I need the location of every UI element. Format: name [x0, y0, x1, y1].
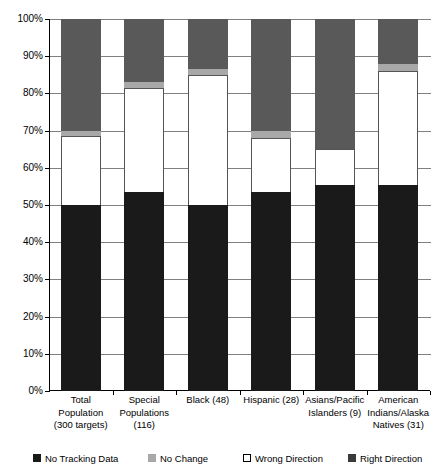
- bar-stack: [188, 19, 228, 391]
- y-axis-tick-label: 80%: [0, 88, 43, 98]
- bar-stack: [378, 19, 418, 391]
- x-axis-labels: TotalPopulation(300 targets)SpecialPopul…: [49, 394, 430, 446]
- legend-item[interactable]: No Tracking Data: [33, 453, 118, 464]
- y-axis-tick-label: 50%: [0, 200, 43, 210]
- x-axis-label: AmericanIndians/AlaskaNatives (31): [367, 394, 431, 432]
- legend-item[interactable]: Right Direction: [348, 453, 422, 464]
- legend-swatch-icon: [243, 454, 251, 462]
- bar-segment-no-tracking[interactable]: [61, 19, 101, 131]
- x-axis-label-line: American: [367, 394, 431, 407]
- x-axis-label-line: Population: [49, 407, 113, 420]
- y-axis-tick-label: 90%: [0, 51, 43, 61]
- y-axis-tick-label: 30%: [0, 274, 43, 284]
- bar-segment-no-tracking[interactable]: [378, 19, 418, 64]
- x-axis-label: Asians/PacificIslanders (9): [303, 394, 367, 419]
- legend-swatch-icon: [348, 454, 356, 462]
- bar-segment-right-direction[interactable]: [251, 192, 291, 391]
- bar-segment-right-direction[interactable]: [61, 205, 101, 391]
- legend-label: Right Direction: [360, 453, 422, 464]
- bar-column[interactable]: [61, 19, 101, 391]
- legend-item[interactable]: Wrong Direction: [243, 453, 323, 464]
- x-axis-label: SpecialPopulations(116): [113, 394, 177, 432]
- x-axis-label-line: Special: [113, 394, 177, 407]
- chart-legend: No Tracking DataNo ChangeWrong Direction…: [0, 450, 435, 466]
- y-axis-tick-label: 10%: [0, 349, 43, 359]
- x-axis-label-line: Asians/Pacific: [303, 394, 367, 407]
- bar-segment-wrong-direction[interactable]: [61, 136, 101, 205]
- y-axis-tick-label: 100%: [0, 14, 43, 24]
- stacked-bar-chart: 0%10%20%30%40%50%60%70%80%90%100% TotalP…: [0, 0, 435, 473]
- bar-segment-right-direction[interactable]: [315, 185, 355, 391]
- bar-segment-no-tracking[interactable]: [251, 19, 291, 131]
- bar-segment-wrong-direction[interactable]: [251, 138, 291, 192]
- bars-layer: [49, 19, 430, 391]
- x-axis-label-line: (116): [113, 419, 177, 432]
- y-axis-tick-label: 70%: [0, 126, 43, 136]
- bar-column[interactable]: [188, 19, 228, 391]
- bar-segment-right-direction[interactable]: [188, 205, 228, 391]
- bar-segment-wrong-direction[interactable]: [188, 75, 228, 205]
- y-axis-tick-mark: [45, 391, 50, 392]
- x-axis-label-line: Populations: [113, 407, 177, 420]
- x-axis-label-line: Black (48): [176, 394, 240, 407]
- x-axis-label-line: Natives (31): [367, 419, 431, 432]
- legend-swatch-icon: [33, 454, 41, 462]
- bar-column[interactable]: [378, 19, 418, 391]
- bar-segment-right-direction[interactable]: [378, 185, 418, 391]
- y-axis-tick-label: 0%: [0, 386, 43, 396]
- x-axis-label-line: Hispanic (28): [240, 394, 304, 407]
- y-axis-tick-label: 40%: [0, 237, 43, 247]
- bar-stack: [315, 19, 355, 391]
- x-axis-label: TotalPopulation(300 targets): [49, 394, 113, 432]
- bar-stack: [251, 19, 291, 391]
- legend-swatch-icon: [148, 454, 156, 462]
- bar-segment-wrong-direction[interactable]: [378, 71, 418, 184]
- bar-segment-no-change[interactable]: [251, 131, 291, 138]
- x-axis-tick-mark: [430, 391, 431, 395]
- bar-column[interactable]: [251, 19, 291, 391]
- y-axis-tick-label: 20%: [0, 312, 43, 322]
- bar-segment-no-tracking[interactable]: [124, 19, 164, 82]
- bar-stack: [61, 19, 101, 391]
- legend-label: No Change: [160, 453, 208, 464]
- y-axis-tick-label: 60%: [0, 163, 43, 173]
- x-axis-label-line: Total: [49, 394, 113, 407]
- legend-label: No Tracking Data: [45, 453, 118, 464]
- legend-item[interactable]: No Change: [148, 453, 208, 464]
- x-axis-label-line: (300 targets): [49, 419, 113, 432]
- bar-column[interactable]: [124, 19, 164, 391]
- bar-stack: [124, 19, 164, 391]
- bar-segment-no-tracking[interactable]: [315, 19, 355, 149]
- bar-segment-no-tracking[interactable]: [188, 19, 228, 69]
- legend-label: Wrong Direction: [255, 453, 323, 464]
- bar-segment-no-change[interactable]: [378, 64, 418, 71]
- bar-segment-wrong-direction[interactable]: [315, 149, 355, 184]
- bar-column[interactable]: [315, 19, 355, 391]
- x-axis-label: Hispanic (28): [240, 394, 304, 407]
- x-axis-label-line: Islanders (9): [303, 407, 367, 420]
- bar-segment-wrong-direction[interactable]: [124, 88, 164, 192]
- x-axis-label-line: Indians/Alaska: [367, 407, 431, 420]
- bar-segment-right-direction[interactable]: [124, 192, 164, 391]
- x-axis-label: Black (48): [176, 394, 240, 407]
